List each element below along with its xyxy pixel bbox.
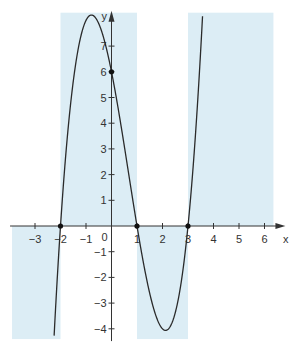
marked-point bbox=[58, 223, 63, 228]
marked-point bbox=[134, 223, 139, 228]
x-tick-label: 2 bbox=[159, 233, 165, 245]
origin-label: 0 bbox=[102, 231, 108, 243]
x-tick-label: 4 bbox=[210, 233, 216, 245]
x-tick-label: 6 bbox=[261, 233, 267, 245]
x-axis-arrow-icon bbox=[275, 223, 285, 229]
y-axis-label: y bbox=[102, 10, 108, 22]
marked-point bbox=[185, 223, 190, 228]
shaded-region-2 bbox=[61, 13, 138, 226]
x-axis-label: x bbox=[283, 233, 289, 245]
y-tick-label: 2 bbox=[100, 169, 106, 181]
x-tick-label: −1 bbox=[80, 233, 93, 245]
x-tick-label: 5 bbox=[236, 233, 242, 245]
cubic-function-chart: x y 0 −3−2−1123456−4−3−2−11234567 bbox=[0, 0, 300, 352]
x-tick-label: −3 bbox=[29, 233, 42, 245]
y-tick-label: −2 bbox=[94, 271, 107, 283]
y-tick-label: −4 bbox=[94, 323, 107, 335]
y-tick-label: 4 bbox=[100, 117, 106, 129]
sign-shading bbox=[12, 13, 273, 339]
y-tick-label: −3 bbox=[94, 297, 107, 309]
y-tick-label: 5 bbox=[100, 92, 106, 104]
y-tick-label: 3 bbox=[100, 143, 106, 155]
y-tick-label: 6 bbox=[100, 66, 106, 78]
y-tick-label: 1 bbox=[100, 194, 106, 206]
y-tick-label: −1 bbox=[94, 246, 107, 258]
marked-point bbox=[109, 69, 114, 74]
